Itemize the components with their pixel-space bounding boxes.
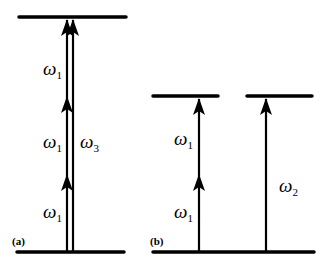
panel-a-label: (a) [12,235,25,248]
panel-b-label-w2: ω2 [279,175,298,198]
panel-b-label-w1-top: ω1 [174,128,193,151]
energy-level-diagram: ω1 ω1 ω3 ω1 (a) ω1 ω1 ω2 (b) [0,0,324,267]
panel-a-label-w1-bottom: ω1 [43,201,62,224]
panel-a-label-w1-mid: ω1 [43,131,62,154]
panel-b-label-w1-bottom: ω1 [174,201,193,224]
panel-b-label: (b) [150,235,164,248]
panel-a-label-w1-top: ω1 [43,58,62,81]
panel-a-label-w3: ω3 [80,131,99,154]
